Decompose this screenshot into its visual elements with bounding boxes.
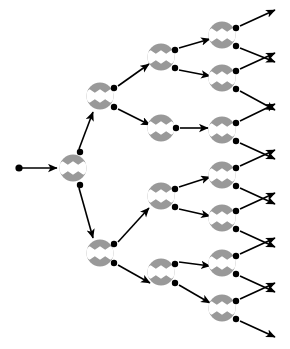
node-upper[interactable] — [85, 83, 116, 110]
edge-n12-out-lower — [240, 276, 275, 292]
node-d2-c[interactable] — [146, 183, 177, 210]
node-d2-a[interactable] — [146, 44, 177, 71]
node-leaf-3[interactable] — [207, 117, 238, 144]
n2-out-upper-dot[interactable] — [111, 241, 117, 247]
n7-out-lower-dot[interactable] — [233, 43, 239, 49]
edge-n9-out-lower — [240, 143, 275, 159]
root-out-upper-dot[interactable] — [77, 149, 83, 155]
edge-n1-to-n3 — [118, 64, 149, 86]
n11-out-upper-dot[interactable] — [233, 208, 239, 214]
edge-n3-to-n7 — [179, 39, 210, 48]
n13-out-upper-dot[interactable] — [233, 298, 239, 304]
n12-out-lower-dot[interactable] — [233, 271, 239, 277]
node-zigzag-band-icon — [207, 301, 238, 315]
edge-n7-out-upper — [240, 10, 275, 26]
edge-n3-to-n8 — [179, 70, 210, 76]
edge-n6-to-n13 — [179, 285, 210, 303]
edge-n13-out-upper — [240, 283, 275, 299]
node-leaf-4[interactable] — [207, 162, 238, 189]
node-leaf-7[interactable] — [207, 295, 238, 322]
node-zigzag-band-icon — [85, 246, 116, 260]
n9-out-lower-dot[interactable] — [233, 138, 239, 144]
n7-out-upper-dot[interactable] — [233, 25, 239, 31]
edge-root-to-n1 — [79, 112, 93, 149]
n6-out-upper-dot[interactable] — [172, 261, 178, 267]
node-zigzag-band-icon — [207, 28, 238, 42]
n3-out-lower-dot[interactable] — [172, 65, 178, 71]
edge-n12-out-upper — [240, 238, 275, 254]
node-zigzag-band-icon — [207, 168, 238, 182]
edge-root-to-n2 — [79, 188, 93, 238]
n5-out-lower-dot[interactable] — [172, 204, 178, 210]
edge-n2-to-n6 — [118, 265, 150, 283]
root-node[interactable] — [58, 155, 89, 182]
node-zigzag-band-icon — [85, 89, 116, 103]
n6-out-lower-dot[interactable] — [172, 280, 178, 286]
edge-n5-to-n11 — [179, 209, 210, 216]
n4-out-single-dot[interactable] — [173, 125, 179, 131]
n2-out-lower-dot[interactable] — [111, 260, 117, 266]
edge-n9-out-upper — [240, 104, 275, 121]
node-leaf-6[interactable] — [207, 250, 238, 277]
node-zigzag-band-icon — [58, 161, 89, 175]
nodes-layer — [58, 22, 238, 322]
node-leaf-5[interactable] — [207, 205, 238, 232]
tree-diagram-svg — [0, 0, 290, 349]
node-zigzag-band-icon — [146, 265, 177, 279]
n8-out-upper-dot[interactable] — [233, 68, 239, 74]
edge-n10-out-upper — [240, 150, 275, 166]
n1-out-upper-dot[interactable] — [111, 85, 117, 91]
edge-n6-to-n12 — [179, 262, 210, 266]
n10-out-lower-dot[interactable] — [233, 183, 239, 189]
node-zigzag-band-icon — [207, 123, 238, 137]
n10-out-upper-dot[interactable] — [233, 165, 239, 171]
n13-out-lower-dot[interactable] — [233, 316, 239, 322]
n3-out-upper-dot[interactable] — [172, 47, 178, 53]
node-zigzag-band-icon — [146, 121, 177, 135]
edge-n1-to-n4 — [118, 109, 150, 125]
n12-out-upper-dot[interactable] — [233, 253, 239, 259]
root-out-lower-dot[interactable] — [77, 182, 83, 188]
node-zigzag-band-icon — [207, 256, 238, 270]
edge-n11-out-lower — [240, 231, 275, 247]
edge-n5-to-n10 — [179, 177, 210, 187]
n1-out-lower-dot[interactable] — [111, 104, 117, 110]
node-d2-b[interactable] — [146, 115, 177, 142]
n8-out-lower-dot[interactable] — [233, 86, 239, 92]
node-zigzag-band-icon — [207, 211, 238, 225]
node-leaf-2[interactable] — [207, 65, 238, 92]
entry-layer — [15, 164, 22, 171]
root-input-dot[interactable] — [15, 164, 22, 171]
node-zigzag-band-icon — [207, 71, 238, 85]
node-zigzag-band-icon — [146, 189, 177, 203]
node-d2-d[interactable] — [146, 259, 177, 286]
n5-out-upper-dot[interactable] — [172, 186, 178, 192]
node-leaf-1[interactable] — [207, 22, 238, 49]
n11-out-lower-dot[interactable] — [233, 226, 239, 232]
n9-out-upper-dot[interactable] — [233, 120, 239, 126]
edge-n13-out-lower — [240, 321, 275, 337]
edge-n2-to-n5 — [118, 208, 149, 242]
node-zigzag-band-icon — [146, 50, 177, 64]
diagram-canvas — [0, 0, 290, 349]
